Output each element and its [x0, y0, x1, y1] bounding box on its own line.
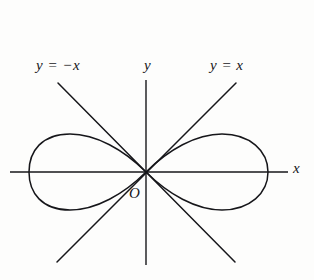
label-x-axis: x	[293, 161, 300, 176]
label-line-y-equals-x: y = x	[210, 58, 243, 73]
label-origin: O	[129, 186, 140, 201]
label-y-axis: y	[144, 58, 151, 73]
lemniscate-figure: y = −x y y = x x O	[0, 0, 314, 280]
label-line-y-equals-negative-x: y = −x	[36, 58, 80, 73]
axes-group	[10, 80, 288, 265]
figure-canvas	[0, 0, 314, 280]
